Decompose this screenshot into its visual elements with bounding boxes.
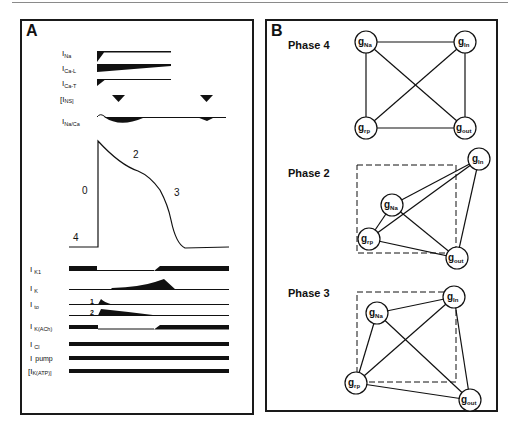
- ap-phase-4: 4: [73, 232, 79, 243]
- trace-ik: IK: [30, 279, 229, 294]
- figure-drawing: INa ICa-L ICa-T [INS] INa/Ca: [0, 0, 517, 426]
- trace-ins: [INS]: [60, 95, 213, 104]
- node-grp: grp: [358, 228, 380, 250]
- phase-3-title: Phase 3: [288, 287, 330, 299]
- trace-ikatp: [IK(ATP)]: [28, 367, 229, 376]
- trace-ito: Ito 1 2: [30, 298, 229, 316]
- trace-ica-l: ICa-L: [62, 64, 171, 74]
- label-ikatp: [IK(ATP)]: [28, 367, 52, 376]
- label-ik1: IK1: [30, 265, 41, 275]
- ap-phase-2: 2: [133, 149, 139, 160]
- label-ins: [INS]: [60, 95, 74, 104]
- trace-ik1: IK1: [30, 265, 229, 275]
- node-gna: gNa: [355, 31, 377, 53]
- label-ica-l: ICa-L: [62, 64, 76, 74]
- phase-3-graph: Phase 3 gIn gNa grp gout: [288, 286, 481, 411]
- phase-2-title: Phase 2: [288, 167, 330, 179]
- action-potential: 0 2 3 4: [69, 141, 229, 248]
- phase-4-graph: Phase 4 gNa gIn grp gout: [288, 31, 476, 139]
- node-gin: gIn: [454, 31, 476, 53]
- top-currents: INa ICa-L ICa-T [INS] INa/Ca: [60, 49, 226, 127]
- label-icl: ICl: [30, 340, 39, 350]
- node-gout: gout: [459, 389, 481, 411]
- label-ica-t: ICa-T: [62, 79, 77, 89]
- node-gout: gout: [454, 117, 476, 139]
- trace-inaca: INa/Ca: [62, 115, 226, 127]
- label-ikach: IK(ACh): [30, 322, 52, 332]
- ins-marker-2: [200, 95, 213, 102]
- node-grp: grp: [345, 372, 367, 394]
- phase-2-graph: Phase 2 gIn gNa grp gout: [288, 148, 490, 269]
- ito-component-1: 1: [90, 298, 94, 305]
- label-ina: INa: [62, 49, 72, 59]
- ito-component-2: 2: [90, 309, 94, 316]
- ap-phase-3: 3: [174, 187, 180, 198]
- label-inaca: INa/Ca: [62, 117, 81, 127]
- trace-ikach: IK(ACh): [30, 322, 229, 332]
- node-grp: grp: [355, 117, 377, 139]
- node-gna: gNa: [381, 194, 403, 216]
- ap-phase-0: 0: [82, 185, 88, 196]
- bottom-currents: IK1 IK Ito 1 2 IK(ACh): [28, 265, 229, 376]
- trace-ica-t: ICa-T: [62, 79, 171, 89]
- node-gout: gout: [446, 247, 468, 269]
- node-gna: gNa: [366, 302, 388, 324]
- label-ito: Ito: [30, 300, 39, 310]
- phase-4-title: Phase 4: [288, 39, 330, 51]
- trace-ina: INa: [62, 49, 171, 62]
- label-ipump: Ipump: [30, 354, 53, 363]
- ap-trace: [69, 141, 229, 248]
- trace-ipump: Ipump: [30, 354, 229, 363]
- node-gin: gIn: [443, 286, 465, 308]
- trace-icl: ICl: [30, 340, 229, 350]
- ins-marker-1: [112, 95, 125, 102]
- node-gin: gIn: [468, 148, 490, 170]
- label-ik: IK: [30, 284, 38, 294]
